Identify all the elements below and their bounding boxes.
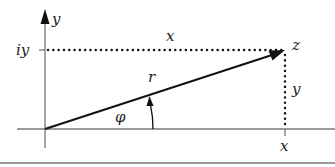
x-top-label: x	[166, 27, 175, 45]
x-tick-label: x	[280, 137, 289, 155]
z-label: z	[291, 36, 300, 54]
vector-r	[45, 50, 285, 129]
complex-plane-diagram: y iy x z r y φ x	[0, 0, 335, 167]
vector-arrowhead-icon	[269, 50, 286, 61]
y-side-label: y	[291, 80, 301, 98]
angle-arrow-icon	[147, 96, 154, 106]
y-axis-label: y	[51, 10, 61, 28]
r-label: r	[148, 68, 156, 86]
phi-label: φ	[115, 108, 126, 126]
y-axis-arrow-icon	[41, 9, 50, 24]
iy-label: iy	[16, 41, 30, 59]
angle-arc	[147, 96, 154, 129]
